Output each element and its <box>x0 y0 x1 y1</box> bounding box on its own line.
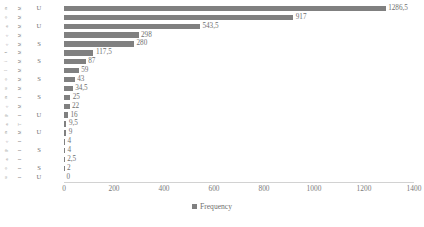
bar-row: 543,5 <box>64 22 414 31</box>
y-axis-tick-b: I <box>13 137 28 146</box>
y-axis-tick-b: T <box>13 120 28 129</box>
y-axis-tick-text: I <box>16 177 25 179</box>
y-axis-tick-text: o <box>2 16 11 18</box>
y-axis-tick-text: I <box>16 97 25 99</box>
y-axis-tick-b: M <box>13 31 28 40</box>
y-axis-tick-code: S <box>28 164 50 173</box>
y-axis-tick-code <box>28 155 50 164</box>
y-axis-tick-text: M <box>16 15 25 19</box>
legend-label: Frequency <box>200 203 232 211</box>
bar-row: 4 <box>64 137 414 146</box>
bar-row: 1286,5 <box>64 4 414 13</box>
bar <box>64 148 65 153</box>
y-axis-tick-text: u <box>2 176 11 178</box>
bar-row: 34,5 <box>64 84 414 93</box>
bar <box>64 68 79 73</box>
y-axis-tick-code <box>28 137 50 146</box>
y-axis-tick-text: I <box>16 114 25 116</box>
x-axis-tick-label: 200 <box>108 184 119 193</box>
bar-row: 2 <box>64 164 414 173</box>
x-axis-tick-label: 1200 <box>357 184 372 193</box>
y-axis-tick-a: n <box>0 93 13 102</box>
y-axis-tick-a: a <box>0 22 13 31</box>
y-axis-tick-b: I <box>13 146 28 155</box>
y-axis-tick-text: e <box>2 34 11 36</box>
bar <box>64 24 200 29</box>
y-axis-tick-code: S <box>28 57 50 66</box>
y-axis-tick-text: e <box>2 141 11 143</box>
y-axis-tick-a: e <box>0 102 13 111</box>
y-axis-code-text: S <box>28 57 50 66</box>
bar <box>64 6 386 11</box>
y-axis-tick-a: a <box>0 155 13 164</box>
y-axis-code-text: S <box>28 146 50 155</box>
x-axis-tick-label: 600 <box>208 184 219 193</box>
y-axis-tick-code: U <box>28 4 50 13</box>
bar <box>64 15 293 20</box>
bar-value-label: 543,5 <box>202 23 218 30</box>
y-axis-tick-code: U <box>28 111 50 120</box>
x-axis-line <box>64 182 414 183</box>
bar-row: 25 <box>64 93 414 102</box>
bar <box>64 166 65 171</box>
y-axis-code-text: S <box>28 40 50 49</box>
y-axis-tick-code <box>28 102 50 111</box>
bar-value-label: 16 <box>71 112 78 119</box>
bar-value-label: 25 <box>73 94 80 101</box>
y-axis-tick-b: M <box>13 22 28 31</box>
bar-value-label: 2,5 <box>67 156 76 163</box>
y-axis-column-a: noaeetilounepanepaou <box>0 4 13 182</box>
bar-row: 9 <box>64 128 414 137</box>
y-axis-tick-a: u <box>0 173 13 182</box>
bar <box>64 157 65 162</box>
y-axis-tick-b: I <box>13 93 28 102</box>
y-axis-tick-text: M <box>16 69 25 73</box>
y-axis-tick-text: M <box>16 104 25 108</box>
y-axis-tick-b: I <box>13 111 28 120</box>
y-axis-tick-code: U <box>28 128 50 137</box>
bar-value-label: 43 <box>77 76 84 83</box>
y-axis-tick-a: e <box>0 40 13 49</box>
bar-value-label: 87 <box>88 58 95 65</box>
bar <box>64 86 73 91</box>
bar-value-label: 4 <box>68 138 72 145</box>
y-axis-tick-code: S <box>28 93 50 102</box>
y-axis-tick-text: M <box>16 6 25 10</box>
y-axis-code-text: S <box>28 75 50 84</box>
bar-row: 9,5 <box>64 120 414 129</box>
y-axis-tick-code <box>28 13 50 22</box>
bar-row: 298 <box>64 31 414 40</box>
y-axis-tick-code <box>28 84 50 93</box>
y-axis-tick-text: u <box>2 87 11 89</box>
y-axis-tick-text: n <box>2 96 11 98</box>
bar-row: 4 <box>64 146 414 155</box>
y-axis-tick-a: p <box>0 111 13 120</box>
y-axis-tick-text: e <box>2 105 11 107</box>
y-axis-tick-text: o <box>2 78 11 80</box>
y-axis-tick-text: M <box>16 42 25 46</box>
y-axis-code-text: U <box>28 4 50 13</box>
y-axis-column-code: UUSSSSUUSSU <box>28 4 50 182</box>
y-axis-tick-text: M <box>16 131 25 135</box>
y-axis-tick-code: S <box>28 40 50 49</box>
y-axis-tick-a: e <box>0 31 13 40</box>
y-axis-tick-b: M <box>13 48 28 57</box>
bar <box>64 50 93 55</box>
y-axis-tick-b: M <box>13 84 28 93</box>
y-axis-tick-text: I <box>16 141 25 143</box>
bar-value-label: 22 <box>72 103 79 110</box>
y-axis-tick-text: M <box>16 78 25 82</box>
y-axis-tick-b: M <box>13 40 28 49</box>
y-axis-tick-code: U <box>28 22 50 31</box>
plot-area: 1286,5917543,5298280117,587594334,525221… <box>64 4 414 182</box>
bar <box>64 41 134 46</box>
y-axis-code-text: U <box>28 22 50 31</box>
x-axis-tick-label: 1400 <box>407 184 422 193</box>
y-axis-tick-a: o <box>0 164 13 173</box>
bar <box>64 32 139 37</box>
x-axis-tick-label: 800 <box>258 184 269 193</box>
bar-row: 22 <box>64 102 414 111</box>
y-axis-tick-code: S <box>28 75 50 84</box>
y-axis-tick-text: n <box>2 7 11 9</box>
bar-row: 16 <box>64 111 414 120</box>
